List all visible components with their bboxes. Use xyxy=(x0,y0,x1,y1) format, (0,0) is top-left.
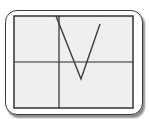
graph-plot xyxy=(0,0,149,119)
